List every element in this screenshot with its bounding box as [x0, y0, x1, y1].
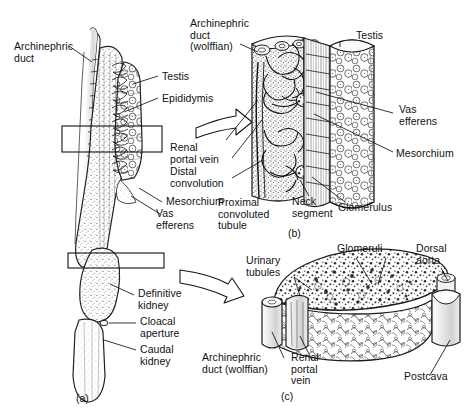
label-archinephric-duct-b: Archinephricduct(wolffian)	[190, 18, 249, 53]
label-archinephric-duct-c: Archinephricduct (wolffian)	[202, 352, 268, 375]
anatomical-figure: Archinephricduct Testis Epididymis Mesor…	[0, 0, 469, 416]
label-dorsal-aorta: Dorsalaorta	[416, 243, 447, 266]
label-testis-a: Testis	[162, 71, 189, 83]
label-glomeruli-c: Glomeruli	[337, 243, 382, 255]
label-vas-efferens-b: Vasefferens	[399, 104, 437, 127]
arrow-a-to-c	[180, 270, 244, 303]
label-renal-portal-vein-c: Renalportalvein	[291, 352, 319, 387]
label-urinary-tubules: Urinarytubules	[246, 255, 280, 278]
label-caudal-kidney: Caudalkidney	[140, 344, 174, 367]
label-testis-b: Testis	[356, 30, 383, 42]
label-proximal-convoluted-tubule: Proximalconvolutedtubule	[218, 197, 269, 232]
label-glomerulus-b: Glomerulus	[338, 202, 392, 214]
panel-a-caption: (a)	[76, 393, 89, 405]
label-neck-segment: Necksegment	[292, 196, 333, 219]
label-distal-convolution: Distalconvolution	[170, 166, 224, 189]
arrow-a-to-b	[196, 109, 252, 138]
panel-c-caption: (c)	[281, 391, 293, 403]
label-renal-portal-vein-b: Renalportal vein	[170, 142, 219, 165]
label-epididymis-a: Epididymis	[162, 93, 213, 105]
label-archinephric-duct-a: Archinephricduct	[14, 41, 73, 64]
label-mesorchium-b: Mesorchium	[396, 148, 454, 160]
label-postcava: Postcava	[404, 371, 448, 383]
label-cloacal-aperture: Cloacalaperture	[140, 316, 180, 339]
label-mesorchium-a: Mesorchium	[166, 196, 224, 208]
panel-b-caption: (b)	[288, 228, 301, 240]
label-definitive-kidney: Definitivekidney	[138, 288, 182, 311]
label-vas-efferens-a: Vasefferens	[156, 208, 194, 231]
